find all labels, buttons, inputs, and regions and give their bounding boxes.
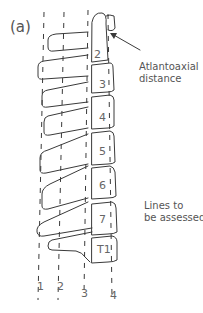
line-3 (84, 10, 88, 296)
lines-label-line2: be assessed (144, 212, 203, 223)
spine-diagram: (a) (0, 0, 203, 313)
label-c5: 5 (99, 145, 106, 158)
line-2 (58, 12, 64, 300)
label-c6: 6 (99, 179, 106, 192)
atlas-arch (106, 15, 115, 31)
label-c7: 7 (99, 213, 106, 226)
atlantoaxial-label-line1: Atlantoaxial (139, 61, 199, 72)
label-c4: 4 (99, 111, 106, 124)
label-c3: 3 (99, 78, 106, 91)
atlantoaxial-label-line2: distance (139, 73, 181, 84)
lines-label-line1: Lines to (144, 200, 183, 211)
label-t1: T1 (96, 243, 111, 256)
line-number-3: 3 (81, 287, 88, 300)
line-number-4: 4 (110, 289, 117, 302)
line-1 (38, 12, 44, 300)
line-number-1: 1 (37, 280, 44, 293)
posterior-elements (37, 32, 92, 262)
panel-label: (a) (10, 18, 31, 36)
label-c2: 2 (94, 48, 101, 61)
line-numbers: 1 2 3 4 (37, 280, 117, 302)
atlantoaxial-arrow (110, 33, 140, 50)
line-number-2: 2 (57, 280, 64, 293)
vertebra-labels: 2 3 4 5 6 7 T1 (94, 48, 111, 256)
